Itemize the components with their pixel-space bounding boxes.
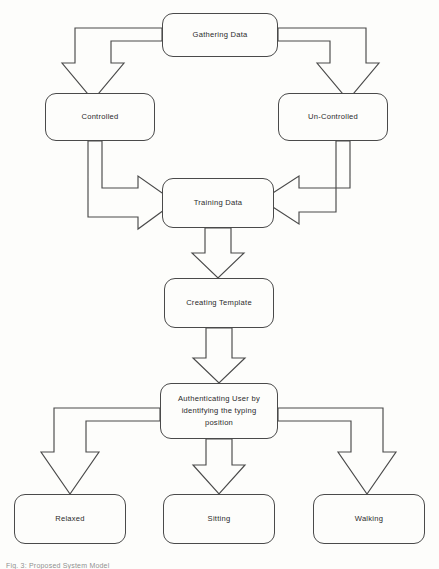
node-relaxed[interactable]: Relaxed xyxy=(14,494,126,544)
figure-caption: Fig. 3: Proposed System Model xyxy=(6,562,109,569)
node-label: Relaxed xyxy=(55,513,85,525)
node-authenticating-user[interactable]: Authenticating User by identifying the t… xyxy=(160,383,278,439)
edge-training-to-creating xyxy=(192,228,244,278)
node-un-controlled[interactable]: Un-Controlled xyxy=(278,93,388,141)
node-label: Controlled xyxy=(81,111,118,123)
edge-creating-to-authenticating xyxy=(193,328,245,383)
edge-gathering-to-controlled xyxy=(62,28,162,100)
node-label: Gathering Data xyxy=(193,29,248,41)
node-label: Training Data xyxy=(194,197,243,209)
node-sitting[interactable]: Sitting xyxy=(163,494,275,544)
node-walking[interactable]: Walking xyxy=(313,494,425,544)
edge-authenticating-to-sitting xyxy=(193,439,245,494)
edge-authenticating-to-walking xyxy=(278,408,396,494)
edge-uncontrolled-to-training xyxy=(262,141,350,224)
node-label: Sitting xyxy=(208,513,231,525)
node-training-data[interactable]: Training Data xyxy=(162,178,274,228)
node-creating-template[interactable]: Creating Template xyxy=(164,278,274,328)
edge-authenticating-to-relaxed xyxy=(41,408,160,494)
node-controlled[interactable]: Controlled xyxy=(45,93,155,141)
node-label: Authenticating User by identifying the t… xyxy=(178,393,260,428)
node-gathering-data[interactable]: Gathering Data xyxy=(162,13,278,57)
node-label: Walking xyxy=(355,513,383,525)
node-label: Un-Controlled xyxy=(308,111,358,123)
edge-gathering-to-uncontrolled xyxy=(278,28,379,100)
node-label: Creating Template xyxy=(186,297,252,309)
